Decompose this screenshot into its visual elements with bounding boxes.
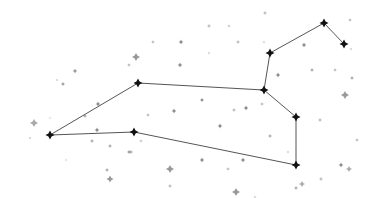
background [0,0,373,198]
constellation-diagram [0,0,373,198]
